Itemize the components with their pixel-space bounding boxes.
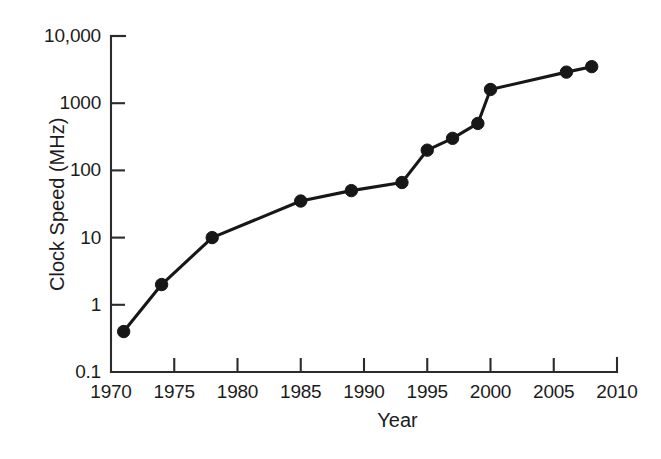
series-markers-clock-speed <box>117 60 597 337</box>
y-tick-label-1: 1 <box>91 294 101 316</box>
x-tick-label-1980: 1980 <box>217 381 258 403</box>
x-tick-label-1975: 1975 <box>154 381 195 403</box>
data-point-2000 <box>484 83 496 95</box>
x-axis-ticks <box>174 358 554 372</box>
data-point-1997 <box>446 132 458 144</box>
series-line-clock-speed <box>124 67 592 332</box>
y-axis-title: Clock Speed (MHz) <box>46 117 69 290</box>
x-tick-label-1970: 1970 <box>90 381 131 403</box>
y-tick-label-0.1: 0.1 <box>75 361 101 383</box>
y-tick-label-100: 100 <box>70 159 101 181</box>
data-point-1999 <box>472 117 484 129</box>
data-point-1971 <box>117 325 129 337</box>
data-point-1974 <box>155 278 167 290</box>
x-tick-label-1995: 1995 <box>407 381 448 403</box>
x-tick-label-1985: 1985 <box>280 381 321 403</box>
data-point-2006 <box>560 66 572 78</box>
data-point-1978 <box>206 231 218 243</box>
y-tick-label-10: 10 <box>80 227 101 249</box>
x-tick-label-2010: 2010 <box>596 381 637 403</box>
y-tick-label-10,000: 10,000 <box>44 25 101 47</box>
x-tick-label-1990: 1990 <box>343 381 384 403</box>
y-tick-label-1000: 1000 <box>60 92 101 114</box>
data-point-1985 <box>295 195 307 207</box>
data-point-2008 <box>586 60 598 72</box>
x-axis-title: Year <box>0 409 661 432</box>
x-tick-label-2000: 2000 <box>470 381 511 403</box>
x-tick-label-2005: 2005 <box>533 381 574 403</box>
axis-frame <box>111 36 617 372</box>
data-point-1993 <box>396 176 408 188</box>
y-axis-ticks <box>111 36 125 305</box>
data-point-1995 <box>421 144 433 156</box>
data-point-1989 <box>345 184 357 196</box>
clock-speed-chart: 0.1110100100010,000 19701975198019851990… <box>0 0 661 459</box>
